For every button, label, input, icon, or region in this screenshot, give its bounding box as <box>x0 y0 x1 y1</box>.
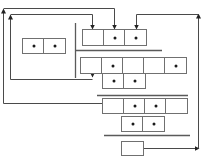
record-cell <box>102 73 125 89</box>
record-cell <box>101 57 124 74</box>
pointer-dot-icon <box>174 64 177 67</box>
record-cell <box>123 98 146 114</box>
arrow-inner-top <box>11 15 93 29</box>
record-cell <box>103 29 126 46</box>
record-cell <box>43 38 66 54</box>
record-cell <box>121 116 144 132</box>
pointer-dot-icon <box>134 36 137 39</box>
record-cell <box>123 73 146 89</box>
pointer-dot-icon <box>154 105 157 108</box>
record-cell <box>121 141 144 156</box>
record-cell <box>124 29 147 46</box>
record-cell <box>122 57 145 74</box>
pointer-dot-icon <box>152 123 155 126</box>
arrow-outer-top <box>4 9 115 29</box>
record-cell <box>143 57 166 74</box>
pointer-dot-icon <box>53 45 56 48</box>
record-cell <box>164 57 187 74</box>
record-cell <box>165 98 188 114</box>
record-cell <box>102 98 125 114</box>
record-cell <box>22 38 45 54</box>
pointer-dot-icon <box>131 123 134 126</box>
pointer-dot-icon <box>133 80 136 83</box>
record-cell <box>144 98 167 114</box>
pointer-dot-icon <box>113 36 116 39</box>
pointer-dot-icon <box>111 64 114 67</box>
pointer-dot-icon <box>112 80 115 83</box>
pointer-dot-icon <box>32 45 35 48</box>
arrow-right-top <box>137 15 199 29</box>
record-cell <box>80 57 103 74</box>
record-cell <box>82 29 105 46</box>
record-cell <box>142 116 165 132</box>
pointer-dot-icon <box>133 105 136 108</box>
diagram-canvas <box>0 0 212 159</box>
